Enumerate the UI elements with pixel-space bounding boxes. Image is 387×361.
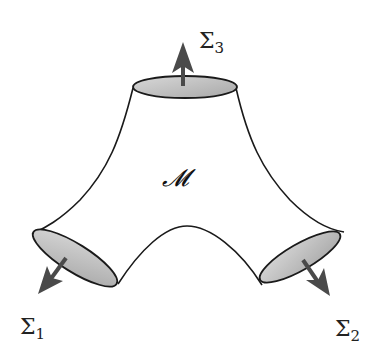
manifold-diagram (0, 0, 387, 361)
label-sigma1: Σ1 (20, 316, 45, 342)
label-sigma2: Σ2 (335, 318, 360, 344)
manifold-label: 𝓜 (162, 164, 189, 192)
sigma2-subscript: 2 (351, 327, 361, 345)
sigma1-symbol: Σ (20, 314, 36, 339)
sigma3-symbol: Σ (199, 28, 215, 53)
sigma1-subscript: 1 (36, 325, 46, 343)
label-sigma3: Σ3 (199, 30, 224, 56)
sigma2-symbol: Σ (335, 316, 351, 341)
boundary-sigma2 (254, 223, 347, 292)
sigma3-subscript: 3 (215, 39, 225, 57)
normal-arrow-sigma2 (303, 260, 330, 296)
normal-arrow-sigma1 (38, 258, 66, 294)
boundary-sigma1 (26, 220, 124, 296)
